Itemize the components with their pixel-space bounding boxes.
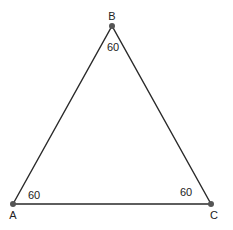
triangle-diagram: B A C 60 60 60 bbox=[0, 0, 233, 230]
angle-a-label: 60 bbox=[28, 189, 40, 201]
vertex-a-label: A bbox=[9, 209, 17, 221]
angle-c-label: 60 bbox=[180, 186, 192, 198]
vertex-c-dot bbox=[208, 201, 214, 207]
vertex-b-dot bbox=[109, 23, 115, 29]
vertex-a-dot bbox=[10, 201, 16, 207]
vertex-b-label: B bbox=[108, 10, 115, 22]
vertex-c-label: C bbox=[210, 209, 218, 221]
angle-b-label: 60 bbox=[107, 41, 119, 53]
